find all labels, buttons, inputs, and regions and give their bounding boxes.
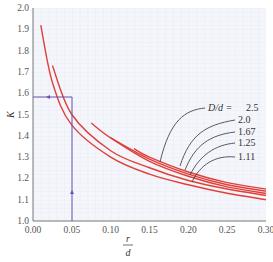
label-2-0: 2.0 — [238, 114, 251, 125]
svg-text:1.2: 1.2 — [17, 173, 29, 183]
svg-text:0.00: 0.00 — [25, 225, 42, 235]
svg-text:1.6: 1.6 — [17, 88, 29, 98]
svg-text:1.5: 1.5 — [17, 110, 29, 120]
x-axis-label-denominator: d — [126, 247, 132, 258]
svg-text:1.3: 1.3 — [17, 152, 29, 162]
x-axis-label-numerator: r — [126, 233, 130, 244]
y-tick-labels: 1.01.11.21.31.41.51.61.71.81.92.0 — [17, 3, 29, 226]
legend-title: D/d = — [207, 102, 232, 113]
label-1-11: 1.11 — [238, 151, 255, 162]
svg-text:1.7: 1.7 — [17, 67, 29, 77]
chart: 1.01.11.21.31.41.51.61.71.81.92.0 0.000.… — [0, 0, 273, 262]
x-tick-labels: 0.000.050.100.150.200.250.30 — [25, 225, 273, 235]
svg-text:1.9: 1.9 — [17, 24, 29, 34]
svg-text:1.4: 1.4 — [17, 131, 29, 141]
svg-text:0.05: 0.05 — [64, 225, 81, 235]
svg-text:0.15: 0.15 — [141, 225, 158, 235]
svg-text:2.0: 2.0 — [17, 3, 29, 13]
svg-text:1.1: 1.1 — [17, 195, 29, 205]
label-1-67: 1.67 — [238, 126, 256, 137]
label-1-25: 1.25 — [238, 137, 256, 148]
svg-text:0.10: 0.10 — [102, 225, 119, 235]
svg-text:1.8: 1.8 — [17, 46, 29, 56]
svg-text:0.30: 0.30 — [258, 225, 273, 235]
label-2-5: 2.5 — [246, 102, 259, 113]
y-axis-label: K — [5, 110, 16, 119]
svg-text:0.25: 0.25 — [219, 225, 236, 235]
svg-text:0.20: 0.20 — [180, 225, 197, 235]
